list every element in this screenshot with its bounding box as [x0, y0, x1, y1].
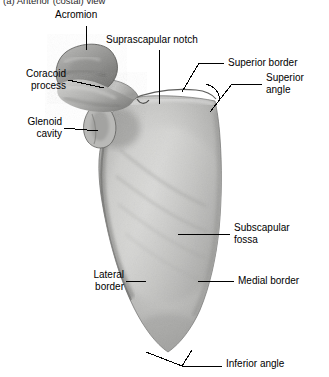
label-acromion: Acromion — [55, 9, 97, 21]
label-glenoid-cavity: Glenoid cavity — [6, 116, 62, 139]
leader-superior-angle-hook — [206, 84, 220, 100]
label-coracoid-process: Coracoid process — [8, 68, 66, 91]
scapula-figure: (a) Anterior (costal) view — [0, 0, 329, 377]
label-superior-angle: Superior angle — [266, 72, 304, 95]
label-lateral-border: Lateral border — [66, 269, 124, 292]
leader-superior-angle — [210, 84, 262, 112]
coracoid-process-shape — [54, 76, 138, 116]
leader-superior-border — [182, 63, 224, 92]
label-subscapular-fossa: Subscapular fossa — [234, 222, 290, 245]
label-suprascapular-notch: Suprascapular notch — [106, 34, 198, 46]
label-medial-border: Medial border — [238, 275, 299, 287]
label-superior-border: Superior border — [228, 57, 297, 69]
leader-inferior-angle-left — [146, 352, 222, 366]
label-inferior-angle: Inferior angle — [226, 358, 284, 370]
leader-inferior-angle-right — [182, 350, 192, 366]
